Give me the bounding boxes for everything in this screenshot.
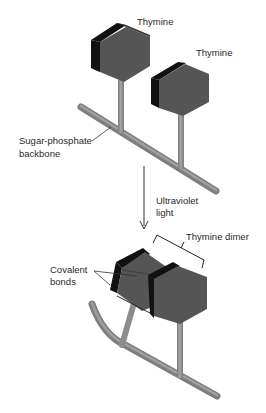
rod-dimer-right: [177, 318, 183, 378]
thymine-dimer-base-right: [148, 262, 207, 324]
label-thymine-1: Thymine: [137, 16, 173, 27]
label-covalent-line2: bonds: [50, 276, 76, 287]
label-thymine-2: Thymine: [196, 47, 232, 58]
label-uv-line1: Ultraviolet: [156, 195, 199, 206]
thymine-dimer-diagram: Thymine Thymine Sugar-phosphate backbone…: [0, 0, 266, 413]
label-backbone-line1: Sugar-phosphate: [19, 135, 92, 146]
before-uv-group: Thymine Thymine Sugar-phosphate backbone: [19, 16, 232, 191]
after-uv-group: Thymine dimer Covalent bonds: [50, 231, 249, 396]
label-thymine-dimer: Thymine dimer: [186, 231, 249, 242]
thymine-base-2: [151, 62, 209, 116]
label-covalent-line1: Covalent: [50, 264, 88, 275]
uv-arrow: [140, 166, 148, 229]
rod-dimer-left: [122, 303, 134, 345]
rod-thymine-2: [178, 112, 184, 169]
sugar-phosphate-backbone-top: [81, 106, 216, 191]
sugar-phosphate-backbone-bottom: [92, 303, 217, 396]
rod-thymine-1: [118, 80, 124, 133]
label-uv-line2: light: [156, 207, 174, 218]
label-backbone-line2: backbone: [19, 148, 60, 159]
backbone-pointer: [92, 127, 111, 141]
thymine-base-1: [91, 23, 150, 82]
